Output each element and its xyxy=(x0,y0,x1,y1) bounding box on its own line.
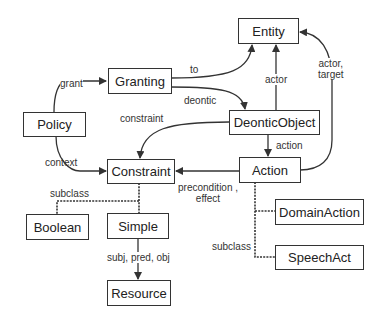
node-entity: Entity xyxy=(238,18,299,44)
edge-label-actor-target-line1: actor, xyxy=(318,58,344,69)
node-policy: Policy xyxy=(23,112,86,137)
node-speech-act: SpeechAct xyxy=(275,245,364,270)
edge-label-precondition: precondition , xyxy=(178,182,238,193)
edge-label-effect: effect xyxy=(178,193,238,204)
node-granting: Granting xyxy=(108,68,172,94)
edge-label-actor: actor xyxy=(265,74,287,85)
node-domain-action: DomainAction xyxy=(275,199,364,225)
node-resource: Resource xyxy=(107,280,171,306)
node-action: Action xyxy=(239,157,301,183)
edge-label-to: to xyxy=(190,64,198,75)
edge-label-context: context xyxy=(45,157,77,168)
node-deontic-object: DeonticObject xyxy=(229,110,320,135)
edge-label-deontic: deontic xyxy=(184,95,216,106)
edge-label-precondition-effect: precondition , effect xyxy=(178,182,238,204)
edge-label-grant: grant xyxy=(60,78,83,89)
edge-label-constraint: constraint xyxy=(120,113,163,124)
edge-label-subclass-constraint: subclass xyxy=(50,188,89,199)
edge-label-actor-target-line2: target xyxy=(318,69,344,80)
edge-label-subclass-action: subclass xyxy=(212,241,251,252)
edge-label-actor-target: actor, target xyxy=(318,58,344,80)
edge-label-subj-pred-obj: subj, pred, obj xyxy=(107,252,170,263)
node-constraint: Constraint xyxy=(107,159,175,184)
edge-label-action: action xyxy=(276,140,303,151)
node-simple: Simple xyxy=(107,213,169,239)
node-boolean: Boolean xyxy=(26,214,89,240)
